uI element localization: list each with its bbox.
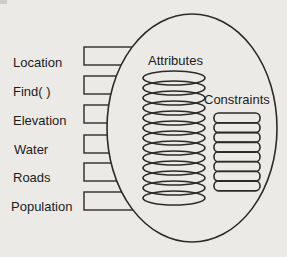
label-find: Find( ) <box>13 84 51 99</box>
outer-ellipse <box>107 14 277 242</box>
label-elevation: Elevation <box>13 113 66 128</box>
constraints-label: Constraints <box>204 92 270 107</box>
label-location: Location <box>13 55 62 70</box>
left-labels: Location Find( ) Elevation Water Roads P… <box>11 55 72 214</box>
label-roads: Roads <box>13 170 51 185</box>
diagram-canvas: Attributes Constraints Location Find( ) … <box>0 0 287 257</box>
label-water: Water <box>14 142 49 157</box>
attributes-label: Attributes <box>148 53 203 68</box>
label-population: Population <box>11 199 72 214</box>
